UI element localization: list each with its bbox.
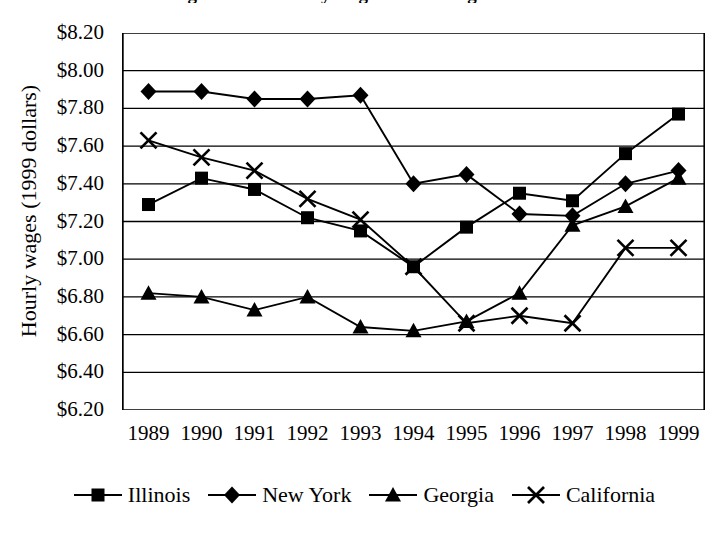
diamond-marker-icon [353,87,369,104]
plot-svg [122,33,705,410]
legend-label: Georgia [423,484,493,506]
series-line [149,178,679,331]
series-line [149,91,679,215]
y-tick-label: $8.00 [18,60,104,81]
triangle-marker-icon [353,319,369,334]
legend-item-california[interactable]: California [510,484,655,506]
x-tick-label: 1999 [648,418,710,448]
y-axis-tick-labels: $8.20$8.00$7.80$7.60$7.40$7.20$7.00$6.80… [18,0,104,535]
legend-item-illinois[interactable]: Illinois [72,484,190,506]
triangle-marker-icon [367,484,419,506]
y-tick-label: $7.80 [18,97,104,118]
legend-label: New York [262,484,351,506]
triangle-marker-icon [300,289,316,304]
y-tick-label: $7.00 [18,248,104,269]
square-marker-icon [513,187,526,200]
line-chart: Figure: Real hourly wages of low-wage wo… [0,0,727,535]
series-line [149,140,679,323]
square-marker-icon [195,172,208,185]
legend-item-new-york[interactable]: New York [206,484,351,506]
square-marker-icon [672,108,685,121]
legend-label: Illinois [128,484,190,506]
chart-legend: IllinoisNew YorkGeorgiaCalifornia [0,472,727,518]
diamond-marker-icon [206,484,258,506]
square-marker-icon [354,224,367,237]
y-tick-label: $7.60 [18,135,104,156]
diamond-marker-icon [406,175,422,192]
square-marker-icon [619,147,632,160]
triangle-marker-icon [141,285,157,300]
diamond-marker-icon [618,175,634,192]
square-marker-icon [301,211,314,224]
y-tick-label: $7.20 [18,211,104,232]
y-tick-label: $6.40 [18,361,104,382]
y-tick-label: $6.60 [18,324,104,345]
square-marker-icon [460,221,473,234]
diamond-marker-icon [247,90,263,107]
square-marker-icon [72,484,124,506]
triangle-marker-icon [618,198,634,213]
y-tick-label: $6.80 [18,286,104,307]
square-marker-icon [91,489,104,502]
square-marker-icon [566,194,579,207]
cross-marker-icon [510,484,562,506]
series-georgia [141,170,687,337]
x-axis-tick-labels: 1989199019911992199319941995199619971998… [122,418,705,452]
legend-label: California [566,484,655,506]
y-tick-label: $8.20 [18,22,104,43]
chart-title-cutoff: Figure: Real hourly wages of low-wage wo… [0,0,727,3]
series-new-york [141,83,687,224]
diamond-marker-icon [141,83,157,100]
diamond-marker-icon [224,487,240,504]
triangle-marker-icon [565,217,581,232]
y-tick-label: $7.40 [18,173,104,194]
diamond-marker-icon [300,90,316,107]
y-tick-label: $6.20 [18,399,104,420]
diamond-marker-icon [459,166,475,183]
legend-item-georgia[interactable]: Georgia [367,484,493,506]
triangle-marker-icon [459,313,475,328]
diamond-marker-icon [512,205,528,222]
square-marker-icon [142,198,155,211]
plot-area [122,33,705,410]
square-marker-icon [248,183,261,196]
diamond-marker-icon [194,83,210,100]
